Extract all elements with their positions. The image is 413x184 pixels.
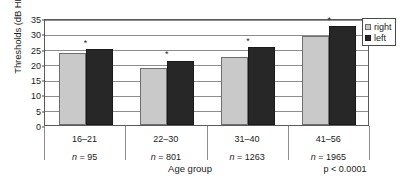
y-tick-mark [42, 20, 45, 21]
category-separator [207, 126, 208, 160]
bar-left-16-21[interactable] [86, 49, 113, 125]
gridline [45, 20, 368, 21]
x-tick-label: 16–21 [72, 134, 97, 144]
significance-marker: * [246, 37, 250, 46]
plot-area: 05101520253035**** [44, 19, 369, 126]
legend-swatch-left-icon [365, 35, 371, 41]
x-category-count: n = 1263 [229, 152, 264, 162]
y-tick-mark [42, 65, 45, 66]
x-category-group: 31–40n = 1263 [229, 134, 264, 162]
category-separator [44, 126, 45, 160]
x-category-group: 22–30n = 801 [151, 134, 181, 162]
legend-label-right: right [374, 22, 392, 32]
category-separator [369, 126, 370, 160]
category-separator [125, 126, 126, 160]
y-tick-label: 20 [31, 61, 41, 71]
x-category-group: 16–21n = 95 [72, 134, 97, 162]
y-tick-mark [42, 111, 45, 112]
y-tick-label: 10 [31, 91, 41, 101]
bar-right-16-21[interactable] [59, 53, 86, 125]
legend-label-left: left [374, 33, 386, 43]
y-tick-mark [42, 50, 45, 51]
category-separator [288, 126, 289, 160]
bar-left-22-30[interactable] [167, 61, 194, 126]
pvalue-annotation: p < 0.0001 [324, 164, 367, 174]
legend-item-left[interactable]: left [365, 32, 392, 43]
bar-right-22-30[interactable] [140, 68, 167, 125]
y-tick-label: 15 [31, 76, 41, 86]
bar-left-31-40[interactable] [248, 47, 275, 125]
x-category-count: n = 95 [72, 152, 97, 162]
y-tick-mark [42, 81, 45, 82]
y-tick-mark [42, 96, 45, 97]
significance-marker: * [165, 50, 169, 59]
significance-marker: * [328, 16, 332, 25]
y-tick-label: 0 [36, 122, 41, 132]
y-tick-mark [42, 35, 45, 36]
bar-chart-figure: Thresholds (dB HL) 05101520253035**** Ag… [0, 0, 413, 184]
y-tick-label: 5 [36, 107, 41, 117]
legend-item-right[interactable]: right [365, 21, 392, 32]
x-category-group: 41–56n = 1965 [311, 134, 346, 162]
x-category-count: n = 1965 [311, 152, 346, 162]
x-tick-label: 41–56 [311, 134, 346, 144]
bar-right-31-40[interactable] [221, 57, 248, 125]
significance-marker: * [84, 39, 88, 48]
y-tick-label: 35 [31, 15, 41, 25]
bar-left-41-56[interactable] [329, 26, 356, 125]
legend-swatch-right-icon [365, 24, 371, 30]
legend: right left [362, 18, 396, 46]
x-category-count: n = 801 [151, 152, 181, 162]
x-tick-label: 22–30 [151, 134, 181, 144]
y-axis-title: Thresholds (dB HL) [12, 0, 23, 94]
y-tick-label: 25 [31, 46, 41, 56]
x-tick-label: 31–40 [229, 134, 264, 144]
bar-right-41-56[interactable] [302, 36, 329, 125]
y-tick-label: 30 [31, 30, 41, 40]
x-axis-title: Age group [168, 163, 212, 174]
